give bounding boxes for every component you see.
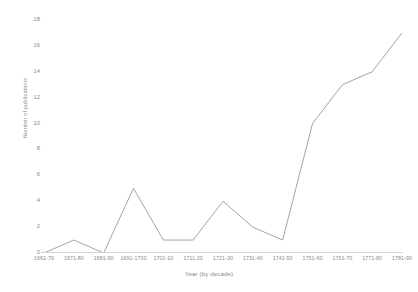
y-tick-label: 14 [34, 69, 40, 75]
y-tick-label: 4 [37, 198, 40, 204]
y-tick-label: 16 [34, 43, 40, 49]
publications-series-polyline [44, 33, 402, 253]
line-chart: Number of publications 024681012141618 1… [0, 0, 418, 292]
y-axis-tick-labels: 024681012141618 [22, 0, 40, 292]
x-tick-label: 1731-40 [243, 256, 263, 261]
plot-area [44, 20, 402, 253]
y-tick-label: 6 [37, 172, 40, 178]
x-tick-label: 1781-90 [392, 256, 412, 261]
x-tick-label: 1681-90 [94, 256, 114, 261]
x-tick-label: 1701-10 [153, 256, 173, 261]
x-tick-label: 1671-80 [64, 256, 84, 261]
x-tick-label: 1761-70 [332, 256, 352, 261]
y-tick-label: 12 [34, 95, 40, 101]
x-tick-label: 1711-20 [183, 256, 202, 261]
x-tick-label: 1771-80 [362, 256, 382, 261]
y-tick-label: 18 [34, 17, 40, 23]
data-series-line [44, 20, 402, 253]
x-tick-label: 1741-50 [273, 256, 293, 261]
x-tick-label: 1751-60 [303, 256, 323, 261]
x-axis-tick-labels: 1661-701671-801681-901691-17001701-10171… [44, 256, 402, 268]
y-tick-label: 8 [37, 147, 40, 153]
x-tick-label: 1691-1700 [121, 256, 147, 261]
x-axis-line [41, 252, 403, 253]
x-tick-label: 1721-30 [213, 256, 233, 261]
x-axis-title: Year (by decade) [0, 270, 418, 277]
y-tick-label: 10 [34, 121, 40, 127]
x-tick-label: 1661-70 [34, 256, 54, 261]
y-tick-label: 2 [37, 224, 40, 230]
